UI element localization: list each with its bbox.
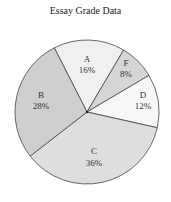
pie-center-dot (86, 111, 88, 113)
svg-text:F: F (123, 58, 128, 68)
svg-text:12%: 12% (135, 101, 152, 111)
pie-chart: A 16% F 8% D 12% C 36% B 28% (0, 0, 171, 202)
svg-text:B: B (38, 90, 44, 100)
svg-text:16%: 16% (79, 65, 96, 75)
svg-text:C: C (91, 146, 97, 156)
svg-text:36%: 36% (86, 158, 103, 168)
svg-text:D: D (140, 90, 147, 100)
svg-text:28%: 28% (33, 101, 50, 111)
svg-text:A: A (84, 54, 91, 64)
svg-text:8%: 8% (120, 69, 133, 79)
